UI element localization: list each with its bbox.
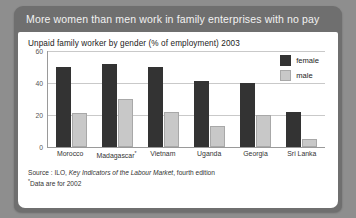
figure-banner: More women than men work in family enter… [14, 6, 342, 32]
source-prefix: Source : ILO, [28, 169, 69, 176]
x-label-georgia: Georgia [232, 150, 278, 159]
bar-group-georgia [233, 51, 279, 147]
bar-morocco-female [56, 67, 71, 147]
chart-panel: Unpaid family worker by gender (% of emp… [18, 32, 338, 208]
x-label-madagascar-marker: * [134, 150, 136, 156]
legend-item-female: female [280, 55, 319, 66]
chart-footer: Source : ILO, Key Indicators of the Labo… [28, 169, 329, 187]
bar-uganda-female [194, 81, 209, 147]
legend-swatch-male [280, 70, 291, 81]
legend-item-male: male [280, 70, 319, 81]
legend-swatch-female [280, 55, 291, 66]
y-tick-20: 20 [35, 111, 43, 118]
source-suffix: , fourth edition [173, 169, 215, 176]
bar-madagascar-male [118, 99, 133, 147]
x-label-srilanka: Sri Lanka [279, 150, 325, 159]
bar-vietnam-male [164, 112, 179, 147]
x-label-morocco: Morocco [47, 150, 93, 159]
footnote-line: *Data are for 2002 [28, 178, 329, 187]
bar-group-vietnam [140, 51, 186, 147]
bar-srilanka-male [302, 139, 317, 147]
bar-georgia-female [240, 83, 255, 147]
source-title: Key Indicators of the Labour Market [69, 169, 173, 176]
y-axis: 60 40 20 0 [29, 51, 45, 147]
y-tick-0: 0 [39, 144, 43, 151]
bar-group-madagascar [94, 51, 140, 147]
x-label-vietnam: Vietnam [140, 150, 186, 159]
x-axis: Morocco Madagascar* Vietnam Uganda Georg… [47, 150, 325, 159]
y-tick-60: 60 [35, 48, 43, 55]
x-label-madagascar: Madagascar* [93, 150, 139, 159]
x-label-madagascar-text: Madagascar [97, 152, 135, 159]
plot-wrapper: 60 40 20 0 [29, 51, 329, 163]
bar-group-morocco [48, 51, 94, 147]
bar-uganda-male [210, 126, 225, 147]
figure-card: More women than men work in family enter… [14, 6, 342, 212]
plot-area: female male [47, 51, 325, 148]
legend-label-male: male [296, 71, 312, 80]
bar-srilanka-female [286, 112, 301, 147]
chart-subtitle: Unpaid family worker by gender (% of emp… [28, 39, 329, 48]
legend-label-female: female [296, 56, 319, 65]
x-label-uganda: Uganda [186, 150, 232, 159]
y-tick-40: 40 [35, 79, 43, 86]
bar-group-uganda [187, 51, 233, 147]
footnote-text: Data are for 2002 [30, 180, 81, 187]
bar-vietnam-female [148, 67, 163, 147]
banner-title: More women than men work in family enter… [26, 13, 320, 25]
source-line: Source : ILO, Key Indicators of the Labo… [28, 169, 329, 176]
bar-madagascar-female [102, 64, 117, 147]
chart-legend: female male [280, 55, 319, 81]
bar-georgia-male [256, 115, 271, 147]
bar-morocco-male [72, 113, 87, 147]
